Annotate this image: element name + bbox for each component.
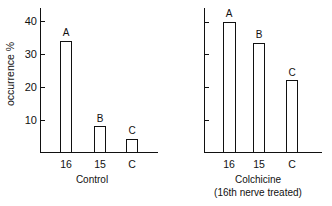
y-axis-label: occurrence % (4, 42, 16, 106)
ytick-label: 40 (25, 15, 37, 27)
control-chart: 10 20 30 40 occurrence % A B C 16 15 C C… (4, 8, 158, 185)
x-axis-label: Control (76, 174, 108, 185)
bar-label: A (63, 27, 70, 38)
category-label: 15 (253, 158, 265, 170)
bar-b (95, 127, 106, 153)
bar-b (254, 44, 265, 153)
ytick-label: 20 (25, 81, 37, 93)
x-axis-label: Colchicine (235, 174, 282, 185)
category-label: 16 (60, 158, 72, 170)
category-label: C (128, 158, 136, 170)
category-label: C (288, 158, 296, 170)
category-label: 15 (94, 158, 106, 170)
ytick-label: 10 (25, 114, 37, 126)
bar-a (61, 42, 72, 153)
ytick-label: 30 (25, 48, 37, 60)
bar-label: C (288, 67, 295, 78)
bar-c (127, 140, 138, 153)
colchicine-chart: A B C 16 15 C Colchicine (16th nerve tre… (204, 8, 322, 198)
x-axis-sublabel: (16th nerve treated) (214, 187, 302, 198)
bar-label: C (128, 125, 135, 136)
bar-c (287, 81, 298, 153)
bar-label: B (97, 113, 104, 124)
bar-a (224, 23, 236, 153)
chart-figure: 10 20 30 40 occurrence % A B C 16 15 C C… (0, 0, 332, 206)
bar-label: B (256, 29, 263, 40)
category-label: 16 (223, 158, 235, 170)
bar-label: A (226, 8, 233, 19)
